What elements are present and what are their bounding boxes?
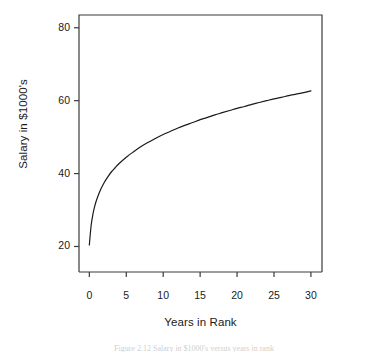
x-tick-label-15: 15: [185, 289, 215, 301]
y-axis-tick-marks: [74, 28, 79, 247]
x-axis-title: Years in Rank: [79, 316, 322, 328]
figure-caption: Figure 2.12 Salary in $1000's versus yea…: [0, 344, 388, 352]
x-tick-label-0: 0: [74, 289, 104, 301]
y-tick-label-60: 60: [42, 94, 70, 106]
x-axis-tick-labels: 051015202530: [0, 289, 388, 303]
y-tick-label-80: 80: [42, 21, 70, 33]
x-tick-label-25: 25: [259, 289, 289, 301]
y-tick-label-20: 20: [42, 239, 70, 251]
axis-frame: [79, 15, 322, 272]
x-tick-label-10: 10: [148, 289, 178, 301]
y-tick-label-40: 40: [42, 167, 70, 179]
x-tick-label-5: 5: [111, 289, 141, 301]
data-series-group: [89, 91, 311, 245]
axis-frame-path: [79, 15, 322, 272]
x-tick-label-30: 30: [296, 289, 326, 301]
y-axis-title: Salary in $1000's: [17, 34, 29, 214]
figure-salary-vs-years: 20406080 051015202530 Salary in $1000's …: [0, 0, 388, 352]
series-line-salary: [89, 91, 311, 245]
x-tick-label-20: 20: [222, 289, 252, 301]
x-axis-tick-marks: [89, 272, 311, 277]
